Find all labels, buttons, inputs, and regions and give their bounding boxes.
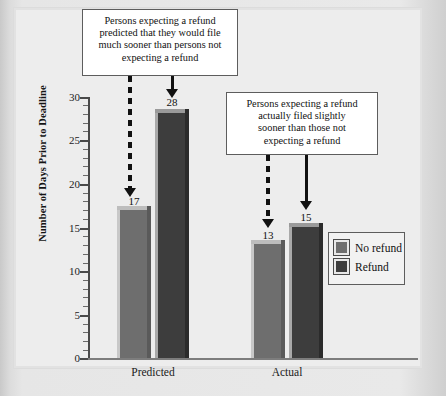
legend-swatch-no-refund-icon	[334, 240, 349, 255]
y-minor-tick	[83, 219, 88, 220]
arrow-shaft	[266, 155, 270, 219]
y-minor-tick	[83, 280, 88, 281]
y-tick-10	[80, 271, 88, 273]
bar-actual-refund[interactable]	[289, 227, 323, 358]
arrow-shaft	[171, 76, 174, 90]
arrow-dashed-to-predicted-no-refund	[120, 76, 140, 198]
y-minor-tick	[83, 193, 88, 194]
y-minor-tick	[83, 105, 88, 106]
bar-side-edge	[185, 109, 189, 358]
legend-item-no-refund[interactable]: No refund	[334, 238, 396, 257]
y-axis-line	[88, 97, 90, 360]
callout-actual-line3: sooner than those not	[258, 122, 346, 133]
legend-swatch-refund-icon	[334, 259, 349, 274]
arrow-head	[262, 219, 274, 228]
y-minor-tick	[83, 131, 88, 132]
y-minor-tick	[83, 297, 88, 298]
arrow-head	[300, 201, 312, 210]
y-minor-tick	[83, 114, 88, 115]
y-minor-tick	[83, 158, 88, 159]
x-axis-line	[88, 358, 418, 360]
y-minor-tick	[83, 166, 88, 167]
bar-face	[155, 113, 189, 358]
y-axis-label-30: 30	[52, 92, 80, 102]
y-minor-tick	[83, 332, 88, 333]
plot-area: 30 25 20 15 10 5 0 Number of Days Prior …	[14, 8, 418, 364]
y-tick-20	[80, 184, 88, 186]
y-minor-tick	[83, 254, 88, 255]
callout-actual-line2: actually filed slightly	[258, 110, 346, 121]
bar-face	[289, 227, 323, 358]
arrow-head	[166, 89, 178, 98]
callout-predicted-line4: expecting a refund	[122, 52, 199, 63]
y-axis-label-20: 20	[52, 179, 80, 189]
y-axis-label-10: 10	[52, 266, 80, 276]
legend-label-refund: Refund	[355, 261, 389, 273]
y-minor-tick	[83, 236, 88, 237]
y-minor-tick	[83, 175, 88, 176]
bar-top-edge	[289, 223, 323, 227]
y-minor-tick	[83, 245, 88, 246]
y-minor-tick	[83, 289, 88, 290]
arrow-solid-to-predicted-refund	[162, 76, 182, 100]
y-minor-tick	[83, 350, 88, 351]
y-tick-0	[80, 358, 88, 360]
chart-legend: No refund Refund	[328, 232, 405, 285]
y-minor-tick	[83, 324, 88, 325]
bar-face	[117, 210, 151, 358]
x-axis-label-actual: Actual	[227, 366, 347, 378]
y-minor-tick	[83, 263, 88, 264]
bar-top-edge	[155, 109, 189, 113]
bar-predicted-no-refund[interactable]	[117, 210, 151, 358]
y-axis-label-25: 25	[52, 135, 80, 145]
y-minor-tick	[83, 123, 88, 124]
y-axis-title: Number of Days Prior to Deadline	[37, 54, 48, 274]
chart-figure: 30 25 20 15 10 5 0 Number of Days Prior …	[0, 0, 446, 396]
callout-predicted: Persons expecting a refund predicted tha…	[82, 9, 238, 76]
y-minor-tick	[83, 341, 88, 342]
y-tick-30	[80, 97, 88, 99]
bar-side-edge	[319, 223, 323, 358]
y-tick-15	[80, 228, 88, 230]
legend-label-no-refund: No refund	[355, 242, 402, 254]
arrow-dashed-to-actual-no-refund	[258, 155, 278, 231]
bar-predicted-refund[interactable]	[155, 113, 189, 358]
callout-actual-line1: Persons expecting a refund	[246, 98, 357, 109]
y-minor-tick	[83, 210, 88, 211]
callout-actual-line4: expecting a refund	[264, 135, 341, 146]
y-axis-label-0: 0	[52, 353, 80, 363]
callout-predicted-line3: much sooner than persons not	[99, 39, 222, 50]
x-axis-label-predicted: Predicted	[93, 366, 213, 378]
callout-predicted-line2: predicted that they would file	[99, 27, 220, 38]
y-tick-25	[80, 140, 88, 142]
callout-predicted-line1: Persons expecting a refund	[104, 15, 215, 26]
y-minor-tick	[83, 306, 88, 307]
arrow-head	[124, 188, 136, 197]
y-axis-label-15: 15	[52, 223, 80, 233]
callout-actual: Persons expecting a refund actually file…	[226, 92, 378, 155]
bar-actual-no-refund[interactable]	[251, 244, 285, 358]
y-minor-tick	[83, 201, 88, 202]
bar-side-edge	[147, 206, 151, 358]
bar-side-edge	[281, 240, 285, 358]
arrow-shaft	[128, 76, 132, 188]
y-minor-tick	[83, 149, 88, 150]
arrow-solid-to-actual-refund	[296, 155, 316, 215]
legend-item-refund[interactable]: Refund	[334, 257, 396, 276]
y-tick-5	[80, 315, 88, 317]
bar-face	[251, 244, 285, 358]
arrow-shaft	[305, 155, 308, 202]
y-axis-label-5: 5	[52, 310, 80, 320]
